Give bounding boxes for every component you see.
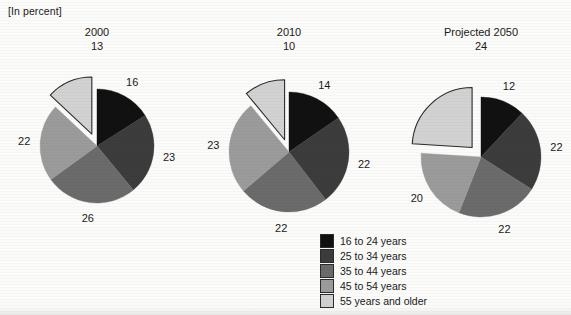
- legend-swatch-1: [320, 234, 334, 248]
- pie-title-1: 2000: [85, 26, 109, 38]
- legend-label-3: 35 to 44 years: [340, 265, 407, 277]
- legend-label-1: 16 to 24 years: [340, 235, 407, 247]
- legend-item-5[interactable]: 55 years and older: [320, 294, 427, 308]
- pie-value-3-2: 22: [550, 141, 562, 153]
- legend: 16 to 24 years25 to 34 years35 to 44 yea…: [320, 234, 427, 308]
- pie-title-2: 2010: [277, 26, 301, 38]
- legend-label-5: 55 years and older: [340, 295, 427, 307]
- pie-value-1-1: 16: [126, 76, 138, 88]
- pie-title-3: Projected 2050: [444, 26, 518, 38]
- legend-item-4[interactable]: 45 to 54 years: [320, 279, 427, 293]
- legend-item-3[interactable]: 35 to 44 years: [320, 264, 427, 278]
- legend-item-2[interactable]: 25 to 34 years: [320, 249, 427, 263]
- pie-value-3-3: 22: [498, 223, 510, 235]
- pie-value-2-1: 14: [318, 79, 330, 91]
- chart-canvas: [In percent] 200013162326222010101422222…: [0, 0, 571, 315]
- scan-edge-smudge: [0, 307, 571, 315]
- legend-item-1[interactable]: 16 to 24 years: [320, 234, 427, 248]
- pie-value-top-2: 10: [283, 40, 295, 52]
- pie-value-1-3: 26: [82, 212, 94, 224]
- pie-value-2-3: 22: [275, 222, 287, 234]
- pie-value-top-3: 24: [475, 40, 487, 52]
- legend-swatch-5: [320, 294, 334, 308]
- pie-chart-3: [402, 78, 560, 236]
- pie-value-top-1: 13: [91, 40, 103, 52]
- pie-value-3-1: 12: [503, 80, 515, 92]
- unit-note: [In percent]: [8, 5, 62, 17]
- legend-label-2: 25 to 34 years: [340, 250, 407, 262]
- pie-value-2-4: 23: [207, 139, 219, 151]
- pie-value-1-4: 22: [18, 135, 30, 147]
- pie-value-3-4: 20: [411, 192, 423, 204]
- legend-label-4: 45 to 54 years: [340, 280, 407, 292]
- pie-chart-2: [210, 73, 368, 231]
- pie-slice-3-5: [412, 88, 472, 148]
- pie-value-1-2: 23: [163, 151, 175, 163]
- pie-value-2-2: 22: [358, 158, 370, 170]
- legend-swatch-4: [320, 279, 334, 293]
- legend-swatch-2: [320, 249, 334, 263]
- pie-chart-1: [21, 70, 173, 222]
- legend-swatch-3: [320, 264, 334, 278]
